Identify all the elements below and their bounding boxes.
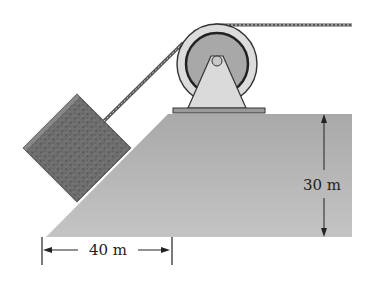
pulley-axle — [212, 56, 222, 66]
pulley — [173, 24, 265, 113]
pulley-base-plate — [173, 108, 265, 113]
horizontal-label: 40 m — [89, 241, 127, 259]
horizontal-dimension: 40 m — [42, 237, 172, 265]
height-label: 30 m — [303, 176, 341, 194]
pulley-incline-diagram: 30 m 40 m — [0, 0, 375, 285]
